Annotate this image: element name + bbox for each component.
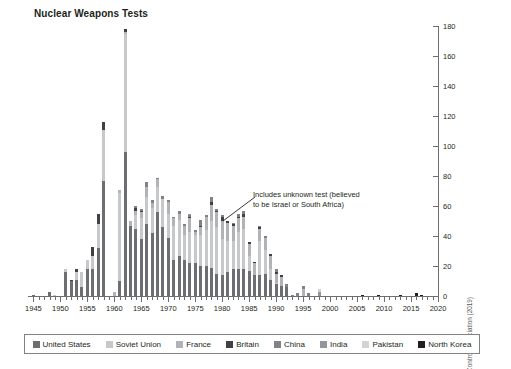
x-axis-label-1985: 1985 <box>241 304 258 313</box>
y-tick-140 <box>433 86 438 87</box>
bar-segment-soviet-union <box>134 215 137 229</box>
x-tick-2009 <box>379 297 380 300</box>
bar-1968 <box>156 178 159 297</box>
bar-segment-united-states <box>102 181 105 297</box>
bar-segment-soviet-union <box>194 235 197 264</box>
y-axis-label-60: 60 <box>443 202 451 211</box>
legend-item-label: North Korea <box>428 340 471 349</box>
x-tick-2018 <box>427 297 428 300</box>
legend-item-britain[interactable]: Britain <box>226 340 259 349</box>
bar-segment-united-states <box>226 272 229 296</box>
bar-segment-soviet-union <box>264 250 267 274</box>
x-tick-2017 <box>422 297 423 300</box>
bar-1963 <box>129 221 132 296</box>
y-tick-180 <box>433 26 438 27</box>
bar-segment-france <box>167 202 170 214</box>
y-axis-label-40: 40 <box>443 232 451 241</box>
legend-item-united-states[interactable]: United States <box>33 340 91 349</box>
x-tick-1992 <box>287 297 288 300</box>
legend-swatch-icon <box>176 341 183 348</box>
bar-segment-france <box>156 179 159 187</box>
bar-segment-united-states <box>167 238 170 297</box>
x-tick-1969 <box>163 297 164 300</box>
source-note: Figure rendered based on data from the A… <box>464 26 476 297</box>
legend-item-france[interactable]: France <box>176 340 211 349</box>
bar-1952 <box>70 280 73 297</box>
x-tick-1996 <box>309 297 310 300</box>
x-tick-1958 <box>104 297 105 300</box>
chart-page: Nuclear Weapons Tests 194519501955196019… <box>0 0 511 369</box>
legend-item-india[interactable]: India <box>320 340 347 349</box>
x-tick-1963 <box>131 297 132 300</box>
bar-segment-soviet-union <box>140 218 143 239</box>
y-tick-100 <box>433 146 438 147</box>
bar-1982 <box>232 223 235 297</box>
legend-item-china[interactable]: China <box>274 340 305 349</box>
bar-segment-soviet-union <box>97 224 100 248</box>
x-axis-label-1980: 1980 <box>214 304 231 313</box>
bar-1956 <box>91 247 94 297</box>
x-tick-2013 <box>400 297 401 300</box>
bar-1976 <box>199 220 202 297</box>
bar-1981 <box>226 221 229 296</box>
bar-segment-united-states <box>269 280 272 297</box>
bar-segment-soviet-union <box>232 241 235 270</box>
bar-segment-soviet-union <box>151 208 154 234</box>
x-tick-1985 <box>249 297 250 302</box>
bar-segment-france <box>258 229 261 241</box>
bar-segment-france <box>210 205 213 222</box>
bar-segment-united-states <box>253 275 256 296</box>
y-axis-label-80: 80 <box>443 172 451 181</box>
x-axis-label-1975: 1975 <box>187 304 204 313</box>
x-tick-1971 <box>174 297 175 300</box>
y-tick-80 <box>433 176 438 177</box>
y-axis-label-160: 160 <box>443 52 456 61</box>
bar-1953 <box>75 269 78 296</box>
bar-segment-france <box>269 256 272 270</box>
bar-segment-france <box>264 238 267 250</box>
bars-container <box>28 26 438 296</box>
bar-segment-soviet-union <box>91 256 94 270</box>
x-tick-1987 <box>260 297 261 300</box>
legend-swatch-icon <box>274 341 281 348</box>
legend-item-soviet-union[interactable]: Soviet Union <box>106 340 161 349</box>
x-tick-2011 <box>389 297 390 300</box>
x-axis-label-1970: 1970 <box>160 304 177 313</box>
x-tick-1979 <box>217 297 218 300</box>
bar-segment-united-states <box>156 212 159 296</box>
source-note-text: Figure rendered based on data from the A… <box>466 297 473 369</box>
x-tick-2019 <box>433 297 434 300</box>
x-tick-1961 <box>120 297 121 300</box>
legend-item-pakistan[interactable]: Pakistan <box>362 340 403 349</box>
bar-1966 <box>145 182 148 296</box>
bar-segment-united-states <box>75 280 78 297</box>
x-axis-label-1965: 1965 <box>133 304 150 313</box>
bar-segment-united-states <box>97 248 100 296</box>
x-axis-label-2005: 2005 <box>349 304 366 313</box>
x-tick-1980 <box>222 297 223 302</box>
bar-segment-soviet-union <box>86 260 89 269</box>
bar-1972 <box>178 211 181 297</box>
bar-1989 <box>269 254 272 296</box>
y-axis-label-180: 180 <box>443 22 456 31</box>
x-tick-2001 <box>336 297 337 300</box>
x-tick-1967 <box>152 297 153 300</box>
y-axis-line <box>438 26 439 297</box>
bar-segment-united-states <box>183 260 186 296</box>
bar-segment-united-states <box>70 281 73 296</box>
x-tick-1968 <box>157 297 158 300</box>
x-tick-1975 <box>195 297 196 302</box>
bar-segment-united-states <box>172 260 175 296</box>
bar-segment-united-states <box>258 275 261 296</box>
bar-segment-united-states <box>161 227 164 296</box>
bar-1995 <box>302 286 305 297</box>
bar-segment-united-states <box>140 239 143 296</box>
x-tick-2005 <box>357 297 358 302</box>
bar-1954 <box>80 272 83 296</box>
x-tick-1954 <box>82 297 83 300</box>
bar-segment-united-states <box>118 281 121 296</box>
legend-item-north-korea[interactable]: North Korea <box>418 340 471 349</box>
bar-segment-soviet-union <box>237 232 240 270</box>
bar-segment-soviet-union <box>124 34 127 153</box>
bar-1985 <box>248 242 251 296</box>
